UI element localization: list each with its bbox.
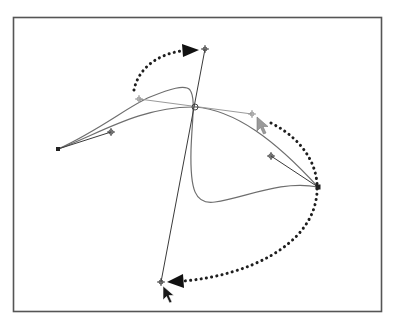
- bezier-diagram: [0, 0, 402, 325]
- right-anchor-point[interactable]: [316, 185, 321, 190]
- diagram-frame: [14, 18, 382, 312]
- left-anchor-point[interactable]: [56, 147, 60, 151]
